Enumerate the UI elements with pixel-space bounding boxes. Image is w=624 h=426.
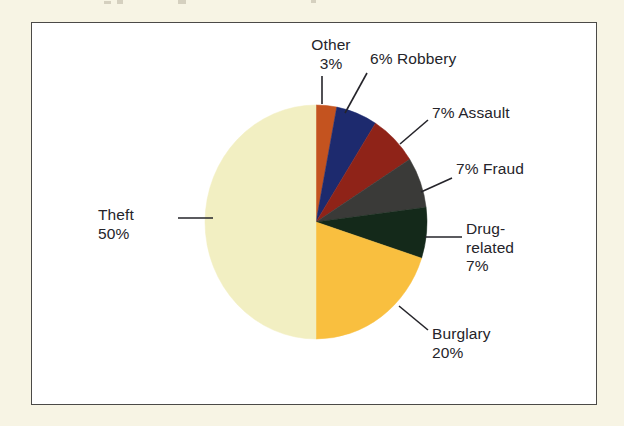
pie-label-robbery-text: 6% Robbery [370, 50, 456, 67]
leader-line-fraud [421, 178, 452, 192]
pie-label-assault-text: 7% Assault [432, 104, 510, 121]
pie-label-drug-related-line1: Drug- [466, 220, 505, 237]
pie-label-fraud-text: 7% Fraud [456, 160, 524, 177]
leader-line-burglary [399, 306, 428, 330]
pie-label-theft-line1: Theft [98, 206, 134, 223]
pie-label-robbery: 6% Robbery [370, 50, 500, 69]
leader-line-assault [400, 120, 428, 144]
pie-slice-group [205, 105, 427, 339]
leader-line-robbery [345, 73, 367, 113]
pie-label-other-line2: 3% [320, 55, 343, 72]
pie-label-fraud: 7% Fraud [456, 160, 576, 179]
pie-label-burglary-line2: 20% [432, 344, 463, 361]
pie-label-theft-line2: 50% [98, 225, 129, 242]
pie-label-drug-related-line3: 7% [466, 257, 489, 274]
pie-label-assault: 7% Assault [432, 104, 562, 123]
pie-label-other: Other3% [300, 36, 362, 73]
pie-label-theft: Theft50% [98, 206, 176, 243]
pie-label-other-line1: Other [311, 36, 350, 53]
pie-slice-theft [205, 105, 316, 339]
pie-label-drug-related: Drug-related7% [466, 220, 566, 276]
pie-label-burglary-line1: Burglary [432, 325, 491, 342]
pie-label-burglary: Burglary20% [432, 325, 552, 362]
pie-label-drug-related-line2: related [466, 239, 514, 256]
